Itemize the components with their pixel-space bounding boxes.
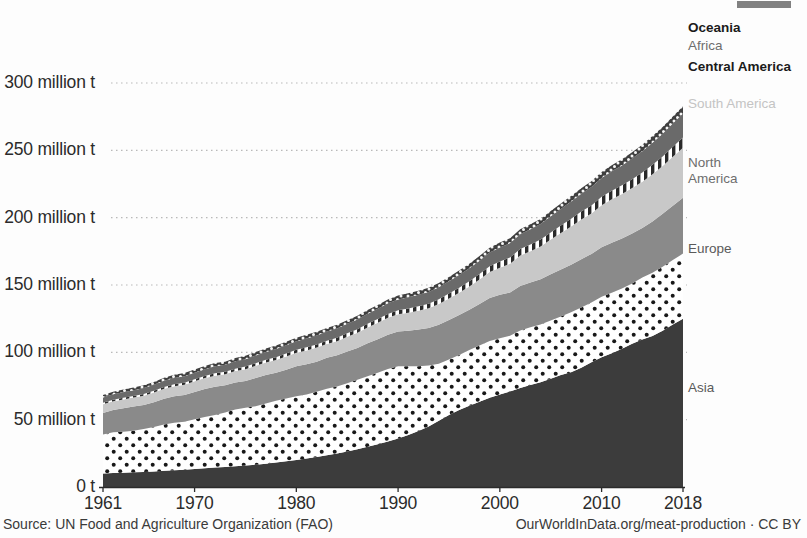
y-tick-label: 250 million t bbox=[0, 139, 95, 160]
legend-label-europe[interactable]: Europe bbox=[688, 241, 732, 257]
y-tick-label: 100 million t bbox=[0, 341, 95, 362]
x-tick-label: 1970 bbox=[150, 493, 240, 514]
y-tick-label: 50 million t bbox=[0, 409, 95, 430]
chart-page: 0 t50 million t100 million t150 million … bbox=[0, 0, 807, 538]
legend-label-oceania[interactable]: Oceania bbox=[688, 20, 741, 36]
x-tick-label: 1961 bbox=[58, 493, 148, 514]
y-tick-label: 300 million t bbox=[0, 72, 95, 93]
legend-label-africa[interactable]: Africa bbox=[688, 38, 723, 54]
x-tick-label: 2010 bbox=[557, 493, 647, 514]
legend-label-south-america[interactable]: South America bbox=[688, 96, 776, 112]
attribution-note[interactable]: OurWorldInData.org/meat-production · CC … bbox=[516, 516, 801, 532]
y-tick-label: 200 million t bbox=[0, 207, 95, 228]
x-tick-label: 2018 bbox=[638, 493, 728, 514]
area-layers bbox=[103, 106, 683, 487]
legend-label-north-america[interactable]: North America bbox=[688, 155, 748, 187]
legend-label-asia[interactable]: Asia bbox=[688, 380, 714, 396]
source-note: Source: UN Food and Agriculture Organiza… bbox=[3, 516, 333, 532]
x-axis bbox=[99, 487, 685, 492]
x-tick-label: 2000 bbox=[455, 493, 545, 514]
legend-label-central-america[interactable]: Central America bbox=[688, 59, 791, 75]
x-tick-label: 1990 bbox=[353, 493, 443, 514]
y-tick-label: 150 million t bbox=[0, 274, 95, 295]
stacked-area-chart bbox=[0, 0, 807, 538]
x-tick-label: 1980 bbox=[251, 493, 341, 514]
